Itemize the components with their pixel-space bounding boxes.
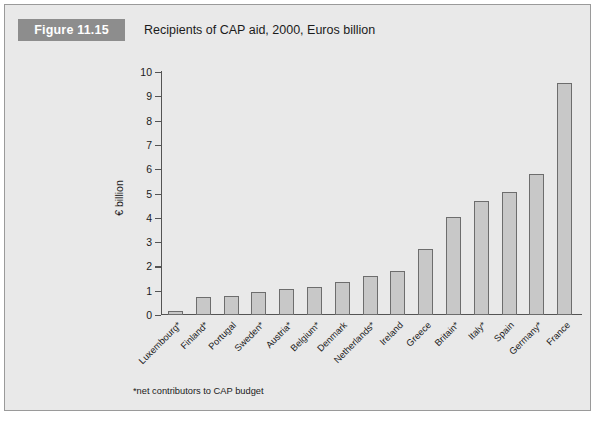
- y-axis-tick-label: 8: [126, 115, 152, 127]
- y-axis-line: [161, 71, 162, 315]
- bar: [502, 192, 517, 315]
- y-axis-tick-label: 10: [126, 66, 152, 78]
- bar: [307, 287, 322, 315]
- bar: [557, 83, 572, 315]
- bar: [529, 174, 544, 315]
- bar: [168, 311, 183, 315]
- bar: [279, 289, 294, 315]
- bar: [474, 201, 489, 315]
- figure-footnote: *net contributors to CAP budget: [133, 386, 264, 396]
- y-axis-tick-label: 6: [126, 163, 152, 175]
- bar: [390, 271, 405, 315]
- bar: [418, 249, 433, 315]
- bar: [446, 217, 461, 315]
- y-axis-tick-label: 3: [126, 236, 152, 248]
- y-axis-tick-label: 1: [126, 285, 152, 297]
- bar: [196, 297, 211, 315]
- y-axis-tick-label: 4: [126, 212, 152, 224]
- y-axis-tick-label: 9: [126, 90, 152, 102]
- bar: [335, 282, 350, 315]
- y-axis-tick-label: 5: [126, 188, 152, 200]
- y-axis-tick-label: 0: [126, 309, 152, 321]
- chart-plot-area: € billion 109876543210 Luxembourg*Finlan…: [5, 5, 592, 412]
- bar: [224, 296, 239, 315]
- figure-panel: Figure 11.15 Recipients of CAP aid, 2000…: [4, 4, 591, 411]
- y-axis-tick-label: 7: [126, 139, 152, 151]
- bar: [251, 292, 266, 315]
- bar: [363, 276, 378, 315]
- y-axis-tick-label: 2: [126, 260, 152, 272]
